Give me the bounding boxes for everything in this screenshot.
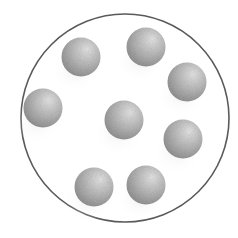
particle-left xyxy=(24,89,63,128)
particle-top-center xyxy=(127,28,166,67)
particle-lower-right xyxy=(164,120,203,159)
particle-bottom-left xyxy=(75,168,114,207)
particle-center xyxy=(105,101,144,140)
particle-bottom-right xyxy=(127,166,166,205)
diagram-canvas xyxy=(0,0,238,238)
particle-upper-right xyxy=(168,63,207,102)
particles-in-container-diagram xyxy=(0,0,238,238)
particle-top-left xyxy=(62,38,101,77)
